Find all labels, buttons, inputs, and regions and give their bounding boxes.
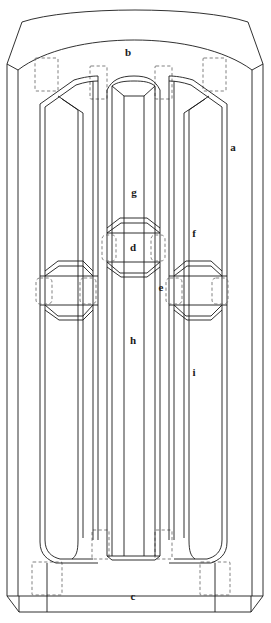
label-a: a bbox=[230, 142, 236, 153]
left-panel-assembly bbox=[40, 76, 98, 563]
centre-head-arc2 bbox=[112, 81, 155, 86]
right-panel-assembly bbox=[169, 76, 227, 563]
left-panel-foot3 bbox=[72, 540, 78, 559]
door-assembly-linework bbox=[0, 0, 271, 623]
drawing-canvas: a b c d e f g h i bbox=[0, 0, 271, 623]
right-joint-lower-bevel bbox=[174, 305, 222, 316]
label-f: f bbox=[192, 228, 196, 239]
label-g: g bbox=[131, 187, 137, 198]
centre-joint-upper-bevel2 bbox=[107, 223, 160, 233]
tenon-top-outer-right bbox=[203, 58, 226, 91]
tenon-mid-left-a bbox=[36, 278, 52, 304]
right-panel-foot2 bbox=[174, 540, 222, 559]
label-i: i bbox=[192, 367, 195, 378]
centre-joint-lower-bevel bbox=[107, 262, 160, 273]
arch-inner-line bbox=[18, 40, 252, 70]
tenon-mid-centre-b bbox=[151, 235, 165, 261]
left-joint-upper-bevel2 bbox=[45, 266, 93, 276]
label-e: e bbox=[159, 282, 164, 293]
bottom-rail-reference-lines bbox=[47, 563, 215, 612]
label-c: c bbox=[131, 591, 136, 602]
right-panel-mitre-head2 bbox=[169, 81, 222, 107]
tenon-mid-right-b bbox=[212, 278, 228, 304]
right-panel-mitre-fold2 bbox=[184, 99, 205, 538]
left-panel-mitre-fold bbox=[58, 96, 78, 540]
left-joint-lower-bevel bbox=[45, 305, 93, 316]
right-joint-upper-bevel2 bbox=[174, 266, 222, 276]
tenon-mid-left-b bbox=[80, 278, 96, 304]
bottom-tenon-group bbox=[32, 530, 230, 595]
left-panel-foot2 bbox=[45, 540, 93, 559]
left-panel-mitre-fold2 bbox=[62, 99, 83, 538]
tenon-mid-centre-a bbox=[102, 235, 116, 261]
right-panel-foot3 bbox=[189, 540, 195, 559]
label-b: b bbox=[125, 47, 131, 58]
centre-head-fold-right bbox=[144, 86, 155, 556]
corner-chamfer-top-left bbox=[7, 64, 18, 70]
tenon-bottom-inner-left bbox=[92, 530, 109, 559]
right-panel-mitre-fold bbox=[189, 96, 209, 540]
right-mid-tenon-group bbox=[166, 278, 228, 304]
label-d: d bbox=[130, 242, 136, 253]
label-h: h bbox=[130, 335, 136, 346]
corner-chamfer-top-right bbox=[252, 64, 263, 70]
centre-head-fold-left bbox=[112, 86, 124, 556]
centre-panel-assembly bbox=[107, 76, 160, 560]
tenon-top-outer-left bbox=[35, 58, 58, 91]
top-tenon-group bbox=[35, 58, 226, 99]
